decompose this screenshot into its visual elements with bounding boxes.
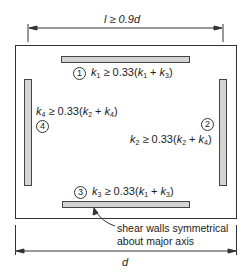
shear-wall-1: [62, 57, 190, 63]
wall-2-label: k2 ≥ 0.33(k2 + k4): [130, 133, 212, 149]
wall-1-label: 1k1 ≥ 0.33(k1 + k3): [73, 66, 173, 82]
subscript: 4: [42, 111, 46, 118]
wall-number-badge: 4: [36, 120, 49, 133]
relation-text: ≥ 0.33(: [104, 185, 138, 197]
annotation-line-1: shear walls symmetrical: [117, 222, 228, 235]
wall-2-badge-wrap: 2: [201, 117, 219, 131]
top-dimension-label: l ≥ 0.9d: [104, 13, 140, 25]
wall-number-badge: 2: [201, 118, 214, 131]
plus-sign: +: [186, 133, 199, 145]
shear-wall-2: [220, 80, 227, 186]
depth-text: d: [122, 256, 128, 268]
plus-sign: +: [92, 105, 105, 117]
length-constraint-text: l ≥ 0.9d: [104, 13, 140, 25]
bottom-dimension-label: d: [122, 256, 128, 268]
close-paren: ): [114, 105, 118, 117]
symmetry-annotation: shear walls symmetrical about major axis: [117, 222, 228, 248]
wall-4-badge-wrap: 4: [36, 119, 54, 133]
shear-wall-3: [63, 202, 190, 208]
top-dimension: [28, 24, 223, 42]
relation-text: ≥ 0.33(: [103, 66, 137, 78]
relation-text: ≥ 0.33(: [142, 133, 176, 145]
leader-arrow: [93, 208, 115, 226]
wall-number-badge: 1: [73, 67, 86, 80]
plus-sign: +: [147, 66, 160, 78]
close-paren: ): [169, 66, 173, 78]
close-paren: ): [170, 185, 174, 197]
subscript: 1: [97, 72, 101, 79]
wall-3-label: 3k3 ≥ 0.33(k1 + k3): [74, 185, 174, 201]
relation-text: ≥ 0.33(: [48, 105, 82, 117]
subscript: 2: [136, 139, 140, 146]
wall-number-badge: 3: [74, 186, 87, 199]
subscript: 3: [98, 191, 102, 198]
close-paren: ): [208, 133, 212, 145]
annotation-line-2: about major axis: [117, 235, 228, 248]
shear-wall-4: [25, 80, 32, 186]
plus-sign: +: [148, 185, 161, 197]
